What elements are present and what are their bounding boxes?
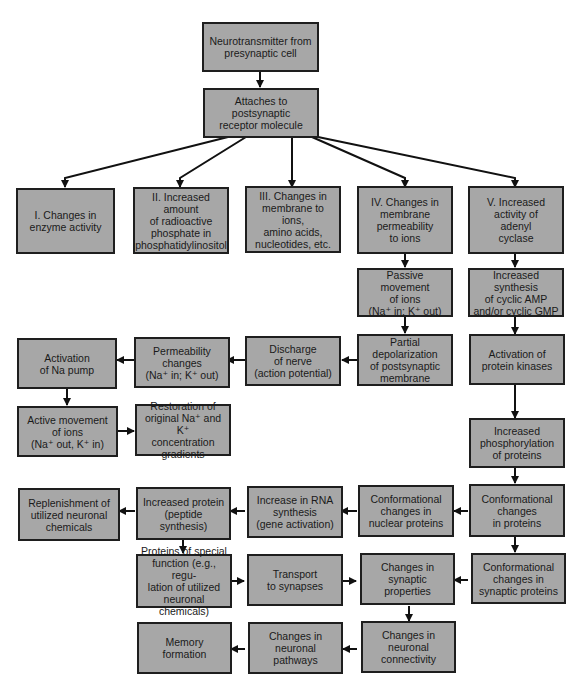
node-permeability-changes: Permeability changes (Na⁺ in; K⁺ out) (134, 337, 230, 388)
node-nuclear-proteins: Conformational changes in nuclear protei… (358, 485, 454, 537)
node-synaptic-proteins: Conformational changes in synaptic prote… (471, 553, 566, 604)
node-replenishment: Replenishment of utilized neuronal chemi… (18, 488, 120, 541)
node-partial-depolarization: Partial depolarization of postsynaptic m… (357, 334, 453, 386)
node-active-movement: Active movement of ions (Na⁺ out, K⁺ in) (17, 406, 118, 457)
node-i-enzyme-activity: I. Changes in enzyme activity (16, 188, 115, 254)
node-increased-protein: Increased protein (peptide synthesis) (136, 487, 231, 540)
node-special-function-proteins: Proteins of special function (e.g., regu… (136, 554, 232, 608)
node-na-pump: Activation of Na pump (17, 338, 117, 389)
node-ii-radioactive-phosphate: II. Increased amount of radioactive phos… (133, 187, 229, 254)
node-conformational-proteins: Conformational changes in proteins (469, 484, 565, 537)
node-attaches-receptor: Attaches to postsynaptic receptor molecu… (203, 88, 319, 138)
node-restoration-gradients: Restoration of original Na⁺ and K⁺ conce… (135, 404, 231, 456)
node-iv-membrane-permeability: IV. Changes in membrane permeability to … (357, 186, 453, 254)
node-rna-synthesis: Increase in RNA synthesis (gene activati… (247, 486, 343, 538)
node-cyclic-amp: Increased synthesis of cyclic AMP and/or… (468, 268, 564, 317)
node-passive-movement: Passive movement of ions (Na⁺ in; K⁺ out… (357, 268, 453, 317)
node-v-adenyl-cyclase: V. Increased activity of adenyl cyclase (468, 186, 564, 254)
node-neuronal-connectivity: Changes in neuronal connectivity (361, 621, 456, 673)
node-discharge-nerve: Discharge of nerve (action potential) (245, 336, 341, 386)
node-synaptic-properties: Changes in synaptic properties (360, 553, 455, 605)
node-neurotransmitter: Neurotransmitter from presynaptic cell (202, 22, 319, 72)
node-neuronal-pathways: Changes in neuronal pathways (248, 622, 343, 674)
node-memory-formation: Memory formation (137, 622, 232, 674)
node-transport-synapses: Transport to synapses (247, 554, 343, 606)
node-protein-kinases: Activation of protein kinases (469, 334, 565, 385)
neurotransmitter-flowchart: Neurotransmitter from presynaptic cell A… (0, 0, 584, 689)
node-phosphorylation: Increased phosphorylation of proteins (469, 418, 565, 468)
node-iii-membrane-changes: III. Changes in membrane to ions, amino … (245, 186, 341, 253)
